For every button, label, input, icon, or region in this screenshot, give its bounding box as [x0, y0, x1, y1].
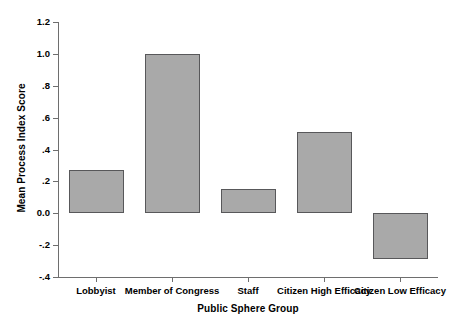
x-tick-mark	[400, 277, 401, 282]
y-tick-mark	[53, 277, 58, 278]
x-tick-label: Member of Congress	[125, 285, 220, 296]
y-tick-label: .4	[10, 145, 50, 155]
y-tick-mark	[53, 150, 58, 151]
x-tick-label: Citizen Low Efficacy	[354, 285, 446, 296]
x-tick-mark	[96, 277, 97, 282]
y-tick-mark	[53, 213, 58, 214]
y-tick-mark	[53, 86, 58, 87]
y-tick-label: -.4	[10, 272, 50, 282]
y-tick-mark	[53, 22, 58, 23]
x-tick-mark	[172, 277, 173, 282]
y-tick-mark	[53, 54, 58, 55]
y-tick-label: -.2	[10, 240, 50, 250]
bar	[221, 189, 276, 213]
bar	[297, 132, 352, 213]
y-tick-label: 1.2	[10, 17, 50, 27]
bar	[145, 54, 200, 213]
y-axis-line	[58, 22, 59, 277]
y-tick-label: 1.0	[10, 49, 50, 59]
x-axis-title: Public Sphere Group	[58, 303, 438, 314]
bar	[69, 170, 124, 213]
x-tick-label: Staff	[237, 285, 258, 296]
x-tick-mark	[324, 277, 325, 282]
y-tick-mark	[53, 181, 58, 182]
y-tick-label: .2	[10, 176, 50, 186]
x-tick-label: Lobbyist	[76, 285, 116, 296]
bar-chart: Mean Process Index Score 1.21.0.8.6.4.20…	[0, 0, 450, 329]
y-tick-label: 0.0	[10, 208, 50, 218]
bar	[373, 213, 428, 259]
y-tick-label: .6	[10, 113, 50, 123]
plot-area: 1.21.0.8.6.4.20.0-.2-.4 LobbyistMember o…	[58, 22, 438, 277]
x-tick-mark	[248, 277, 249, 282]
y-tick-mark	[53, 118, 58, 119]
y-tick-mark	[53, 245, 58, 246]
y-tick-label: .8	[10, 81, 50, 91]
